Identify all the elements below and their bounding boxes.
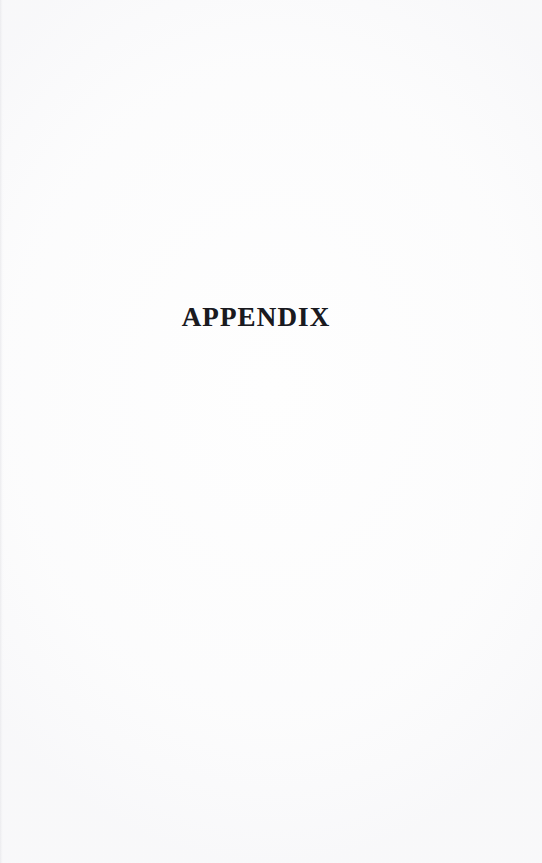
divider-heading-block: APPENDIX: [0, 302, 512, 332]
page-title: APPENDIX: [182, 302, 331, 332]
scan-gutter-edge: [0, 0, 4, 863]
scanned-page: APPENDIX: [0, 0, 542, 863]
